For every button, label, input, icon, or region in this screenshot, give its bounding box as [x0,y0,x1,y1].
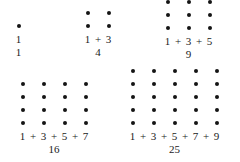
expression-term: 1 [162,35,173,47]
figure-5: 1 + 3 + 5 + 7 + 9 25 [122,69,227,155]
expression-row-3: 1 + 3 + 5 [162,35,220,47]
total-1: 1 [8,46,29,58]
plus-sign: + [180,130,190,142]
dot-column [143,69,164,125]
dot [21,95,25,99]
dot [215,121,219,125]
dot [17,24,21,28]
dot [131,95,135,99]
expression-term: 1 [13,33,24,45]
dot [194,95,198,99]
dot-column [77,11,98,28]
dot [194,121,198,125]
dot [152,108,156,112]
dot [107,24,111,28]
total-4: 16 [12,143,96,155]
dot [42,82,46,86]
dot-column [75,82,96,125]
dot-grid-2 [77,11,119,28]
dot [152,95,156,99]
dot [86,24,90,28]
dot-column [178,0,199,30]
dot [166,0,170,4]
total-3: 9 [157,48,220,60]
dot [42,108,46,112]
dot-grid-3 [157,0,220,30]
dot [84,121,88,125]
dot [173,82,177,86]
dot-column [54,82,75,125]
dot-column [8,24,29,28]
dot [63,121,67,125]
expression-row-1: 1 [13,33,29,45]
dot-column [199,0,220,30]
dot-column [12,82,33,125]
figure-4: 1 + 3 + 5 + 7 16 [12,82,96,155]
plus-sign: + [70,130,80,142]
dot [173,108,177,112]
dot [208,13,212,17]
plus-sign: + [93,33,103,45]
figure-3: 1 + 3 + 5 9 [157,0,220,60]
dot [194,82,198,86]
dot [208,26,212,30]
figure-2: 1 + 3 4 [77,11,119,58]
dot [63,82,67,86]
plus-sign: + [138,130,148,142]
dot [215,95,219,99]
expression-row-2: 1 + 3 [82,33,119,45]
dot [42,95,46,99]
dot [194,69,198,73]
expression-term: 5 [59,130,70,142]
dot [215,69,219,73]
dot [152,121,156,125]
expression-term: 3 [38,130,49,142]
dot-grid-1 [8,24,29,28]
total-2: 4 [77,46,119,58]
expression-term: 1 [82,33,93,45]
total-5: 25 [122,143,227,155]
dot [84,108,88,112]
dot-column [185,69,206,125]
dot [173,95,177,99]
dot [152,69,156,73]
dot [187,26,191,30]
expression-term: 1 [127,130,138,142]
dot [21,121,25,125]
expression-row-4: 1 + 3 + 5 + 7 [17,130,96,142]
dot [152,82,156,86]
dot [166,26,170,30]
expression-term: 1 [17,130,28,142]
dot [21,82,25,86]
dot [21,108,25,112]
dot-grid-5 [122,69,227,125]
dot [42,121,46,125]
dot [215,108,219,112]
dot [166,13,170,17]
dot-column [206,69,227,125]
expression-term: 7 [80,130,91,142]
expression-term: 3 [183,35,194,47]
plus-sign: + [194,35,204,47]
dot [187,13,191,17]
dot-column [33,82,54,125]
plus-sign: + [159,130,169,142]
plus-sign: + [201,130,211,142]
dot [86,11,90,15]
expression-term: 3 [103,33,114,45]
plus-sign: + [49,130,59,142]
expression-term: 9 [211,130,222,142]
dot-grid-4 [12,82,96,125]
dot [131,108,135,112]
dot-column [98,11,119,28]
expression-row-5: 1 + 3 + 5 + 7 + 9 [127,130,227,142]
dot [63,108,67,112]
dot [84,95,88,99]
dot [173,69,177,73]
dot-column [157,0,178,30]
expression-term: 7 [190,130,201,142]
dot [84,82,88,86]
dot [131,121,135,125]
dot-column [122,69,143,125]
dot [107,11,111,15]
